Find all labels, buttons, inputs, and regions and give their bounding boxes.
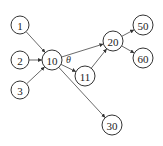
node-50: 50: [133, 15, 153, 35]
node-label: 3: [17, 85, 23, 97]
edge-20-to-50: [122, 30, 134, 37]
node-label: 30: [107, 120, 119, 132]
edge-10-to-11: [61, 64, 76, 71]
edge-11-to-20: [91, 49, 107, 68]
edge-1-to-10: [26, 32, 45, 53]
node-label: 11: [80, 71, 91, 83]
node-30: 30: [102, 115, 122, 135]
edge-label-theta: θ: [66, 54, 71, 65]
node-10: 10: [42, 50, 62, 70]
node-label: 50: [138, 20, 150, 32]
nodes: 123101120506030: [11, 15, 153, 135]
node-11: 11: [75, 66, 95, 86]
edge-20-to-60: [122, 46, 135, 53]
directed-graph: 123101120506030 θ: [0, 0, 163, 146]
node-label: 20: [108, 36, 120, 48]
node-3: 3: [11, 81, 29, 99]
node-label: 10: [47, 55, 59, 67]
node-20: 20: [103, 31, 123, 51]
node-label: 60: [138, 53, 150, 65]
node-1: 1: [11, 16, 29, 34]
node-label: 1: [17, 20, 23, 32]
node-60: 60: [133, 48, 153, 68]
node-label: 2: [17, 55, 23, 67]
node-2: 2: [11, 51, 29, 69]
edge-3-to-10: [27, 67, 45, 84]
